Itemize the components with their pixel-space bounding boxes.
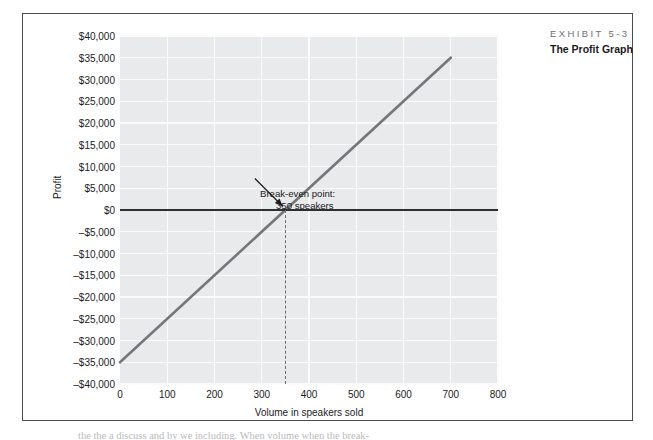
y-axis-tick-label: $30,000: [45, 74, 115, 85]
y-axis-tick-label: $40,000: [45, 31, 115, 42]
y-axis-tick-label: $15,000: [45, 139, 115, 150]
y-axis-tick-label: $0: [45, 205, 115, 216]
break-even-annotation-line2: 350 speakers: [260, 200, 384, 212]
break-even-drop-line: [285, 210, 286, 384]
y-axis-tick-label: $35,000: [45, 52, 115, 63]
break-even-annotation-line1: Break-even point:: [260, 188, 384, 200]
y-axis-tick-label: –$25,000: [45, 313, 115, 324]
y-axis-tick-label: –$15,000: [45, 270, 115, 281]
page-body-text: the the a discuss and by we including. W…: [78, 429, 548, 440]
y-axis-title: Profit: [52, 176, 63, 199]
y-axis-tick-label: –$5,000: [45, 226, 115, 237]
chart-plot-area: Break-even point: 350 speakers: [120, 36, 498, 384]
y-axis-tick-labels: $40,000$35,000$30,000$25,000$20,000$15,0…: [43, 36, 115, 384]
exhibit-figure-frame: EXHIBIT 5-3 The Profit Graph Break-even …: [22, 13, 633, 421]
y-axis-tick-label: $20,000: [45, 118, 115, 129]
x-axis-title: Volume in speakers sold: [120, 407, 498, 418]
x-axis-tick-labels: 0100200300400500600700800: [120, 389, 498, 405]
exhibit-number: EXHIBIT 5-3: [550, 28, 653, 39]
y-axis-tick-label: $10,000: [45, 161, 115, 172]
y-axis-tick-label: –$20,000: [45, 292, 115, 303]
break-even-annotation: Break-even point: 350 speakers: [260, 188, 384, 211]
y-axis-tick-label: –$10,000: [45, 248, 115, 259]
y-axis-tick-label: $25,000: [45, 96, 115, 107]
y-axis-tick-label: –$35,000: [45, 357, 115, 368]
y-axis-tick-label: –$30,000: [45, 335, 115, 346]
y-axis-tick-label: –$40,000: [45, 379, 115, 390]
exhibit-header: EXHIBIT 5-3 The Profit Graph: [550, 28, 653, 55]
x-axis-tick-label: 800: [468, 389, 528, 400]
exhibit-title: The Profit Graph: [550, 43, 653, 55]
